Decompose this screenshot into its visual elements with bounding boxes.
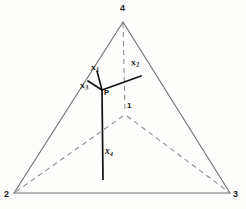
edge-4-to-3	[123, 22, 230, 193]
vertex-label-2: 2	[4, 190, 9, 199]
hidden-edge-1-to-3	[127, 116, 230, 193]
vector-label-x3: x3	[79, 80, 89, 91]
tetrahedron-diagram	[0, 0, 246, 209]
vertex-label-3: 3	[233, 190, 238, 199]
vector-x4-line	[102, 90, 103, 180]
hidden-edge-4-to-1	[123, 23, 125, 113]
figure-canvas: 4 2 3 1 P x1 x2 x3 x4	[0, 0, 246, 209]
point-label-p: P	[104, 89, 109, 97]
edge-4-to-2	[14, 22, 123, 193]
vertex-label-1: 1	[127, 102, 131, 110]
vector-label-x1: x1	[90, 62, 99, 73]
vertex-label-4: 4	[120, 4, 125, 13]
vector-label-x4-sub: 4	[110, 150, 113, 157]
vector-label-x4: x4	[105, 147, 113, 157]
vector-label-x2: x2	[130, 57, 140, 68]
